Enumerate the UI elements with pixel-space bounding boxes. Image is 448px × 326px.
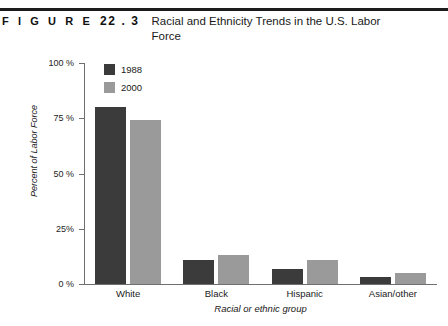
legend-label-2000: 2000 xyxy=(121,82,142,93)
y-tick-mark xyxy=(79,229,85,230)
legend-item-2000: 2000 xyxy=(104,80,142,95)
y-tick-label: 100 % xyxy=(48,59,74,68)
y-tick-label: 75 % xyxy=(53,114,74,123)
bar-black-1988 xyxy=(183,260,214,284)
y-tick-label: 50 % xyxy=(53,170,74,179)
y-tick-mark xyxy=(79,174,85,175)
category-label-asian-other: Asian/other xyxy=(349,288,437,299)
y-tick-mark xyxy=(79,284,85,285)
x-axis-line xyxy=(84,284,437,285)
bar-hispanic-2000 xyxy=(307,260,338,284)
y-tick-label: 25% xyxy=(56,225,74,234)
legend-swatch-2000 xyxy=(104,82,115,93)
bar-chart: Percent of Labor Force Racial or ethnic … xyxy=(0,0,448,326)
legend-swatch-1988 xyxy=(104,64,115,75)
y-axis-title: Percent of Labor Force xyxy=(29,81,39,221)
y-tick-mark xyxy=(79,118,85,119)
legend-label-1988: 1988 xyxy=(121,64,142,75)
x-axis-title: Racial or ethnic group xyxy=(84,303,437,314)
y-tick-label: 0 % xyxy=(58,280,74,289)
bar-asian-other-2000 xyxy=(395,273,426,284)
bar-black-2000 xyxy=(218,255,249,284)
chart-legend: 1988 2000 xyxy=(104,62,142,98)
legend-item-1988: 1988 xyxy=(104,62,142,77)
bar-asian-other-1988 xyxy=(360,277,391,284)
bar-white-2000 xyxy=(130,120,161,284)
bar-white-1988 xyxy=(95,107,126,284)
bar-hispanic-1988 xyxy=(272,269,303,284)
category-label-hispanic: Hispanic xyxy=(261,288,349,299)
category-label-white: White xyxy=(84,288,172,299)
y-tick-mark xyxy=(79,63,85,64)
category-label-black: Black xyxy=(172,288,260,299)
